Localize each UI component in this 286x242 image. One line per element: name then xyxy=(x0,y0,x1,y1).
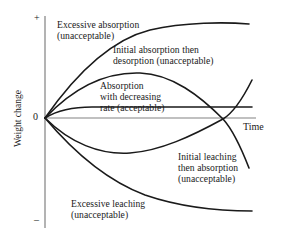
x-axis-title: Time xyxy=(243,121,264,132)
y-axis-tick-positive: + xyxy=(34,12,40,23)
annotation-excessive-absorption-line-1: Excessive absorption xyxy=(57,19,139,30)
annotation-excessive-absorption: Excessive absorption (unacceptable) xyxy=(57,19,139,41)
annotation-initial-leaching-line-3: (unacceptable) xyxy=(178,173,238,184)
y-axis-tick-negative: – xyxy=(34,214,39,225)
annotation-absorption-decreasing-line-1: Absorption xyxy=(100,80,165,91)
annotation-excessive-leaching: Excessive leaching (unacceptable) xyxy=(71,198,145,220)
annotation-initial-leaching-line-2: then absorption xyxy=(178,162,238,173)
y-axis-tick-zero: 0 xyxy=(33,111,38,122)
annotation-initial-absorption-line-1: Initial absorption then xyxy=(113,44,214,55)
annotation-excessive-leaching-line-1: Excessive leaching xyxy=(71,198,145,209)
annotation-initial-absorption-line-2: desorption (unacceptable) xyxy=(113,55,214,66)
annotation-initial-absorption-then-desorption: Initial absorption then desorption (unac… xyxy=(113,44,214,66)
y-axis-title: Weight change xyxy=(12,74,23,164)
annotation-absorption-with-decreasing-rate: Absorption with decreasing rate (accepta… xyxy=(100,80,165,114)
annotation-initial-leaching-line-1: Initial leaching xyxy=(178,151,238,162)
annotation-excessive-leaching-line-2: (unacceptable) xyxy=(71,209,145,220)
annotation-excessive-absorption-line-2: (unacceptable) xyxy=(57,30,139,41)
annotation-absorption-decreasing-line-3: rate (acceptable) xyxy=(100,102,165,113)
annotation-initial-leaching-then-absorption: Initial leaching then absorption (unacce… xyxy=(178,151,238,185)
weight-change-vs-time-chart: Weight change Time + 0 – Excessive absor… xyxy=(0,0,286,242)
annotation-absorption-decreasing-line-2: with decreasing xyxy=(100,91,165,102)
